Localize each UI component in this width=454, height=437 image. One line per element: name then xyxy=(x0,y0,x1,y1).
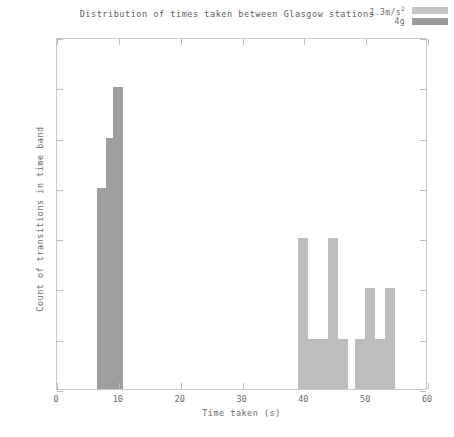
y-axis-tick xyxy=(57,190,63,191)
y-axis-tick xyxy=(57,341,63,342)
x-axis-tick-label: 30 xyxy=(236,394,246,404)
x-axis-tick-label: 50 xyxy=(360,394,370,404)
legend-entry-label: 4g xyxy=(395,17,405,26)
y-axis-tick xyxy=(57,290,63,291)
x-axis-tick xyxy=(119,383,120,389)
x-axis-tick xyxy=(428,383,429,389)
x-axis-tick xyxy=(181,383,182,389)
bar-layer xyxy=(57,39,426,389)
histogram-bar xyxy=(318,339,328,389)
x-axis-tick xyxy=(243,39,244,45)
x-axis-tick xyxy=(366,383,367,389)
y-axis-tick xyxy=(420,290,426,291)
x-axis-tick xyxy=(57,383,58,389)
x-axis-tick-label: 60 xyxy=(422,394,432,404)
x-axis-title: Time taken (s) xyxy=(56,408,427,418)
x-axis-tick xyxy=(57,39,58,45)
histogram-bar xyxy=(385,288,395,389)
histogram-bar xyxy=(365,288,375,389)
legend-swatch xyxy=(412,18,448,25)
legend-entry-label: 1.3m/s2 xyxy=(370,5,405,17)
legend-swatch xyxy=(412,7,448,14)
histogram-bar xyxy=(328,238,338,389)
x-axis-tick xyxy=(243,383,244,389)
x-axis-tick-label: 20 xyxy=(175,394,185,404)
histogram-bar xyxy=(355,339,365,389)
y-axis-tick xyxy=(57,240,63,241)
chart-figure: Distribution of times taken between Glas… xyxy=(0,0,454,437)
x-axis-tick xyxy=(181,39,182,45)
legend-entry: 4g xyxy=(370,16,448,27)
x-axis-tick xyxy=(119,39,120,45)
y-axis-tick xyxy=(420,391,426,392)
x-axis-tick xyxy=(366,39,367,45)
x-axis-tick-label: 10 xyxy=(113,394,123,404)
y-axis-tick xyxy=(57,391,63,392)
x-axis-tick-label: 0 xyxy=(53,394,58,404)
histogram-bar xyxy=(308,339,318,389)
histogram-bar xyxy=(97,188,107,389)
chart-legend: 1.3m/s24g xyxy=(370,5,448,27)
x-axis-tick xyxy=(304,39,305,45)
y-axis-title: Count of transitions in time band xyxy=(35,99,45,339)
y-axis-tick xyxy=(57,140,63,141)
x-axis-tick-label: 40 xyxy=(298,394,308,404)
histogram-bar xyxy=(298,238,308,389)
x-axis-tick xyxy=(304,383,305,389)
legend-entry: 1.3m/s2 xyxy=(370,5,448,16)
y-axis-tick xyxy=(420,140,426,141)
y-axis-tick xyxy=(420,341,426,342)
x-axis-tick xyxy=(428,39,429,45)
y-axis-tick xyxy=(420,240,426,241)
histogram-bar xyxy=(375,339,385,389)
y-axis-tick xyxy=(57,89,63,90)
y-axis-tick xyxy=(420,39,426,40)
y-axis-tick xyxy=(420,190,426,191)
y-axis-tick xyxy=(420,89,426,90)
plot-area xyxy=(56,38,427,390)
histogram-bar xyxy=(338,339,348,389)
histogram-bar xyxy=(113,87,123,389)
